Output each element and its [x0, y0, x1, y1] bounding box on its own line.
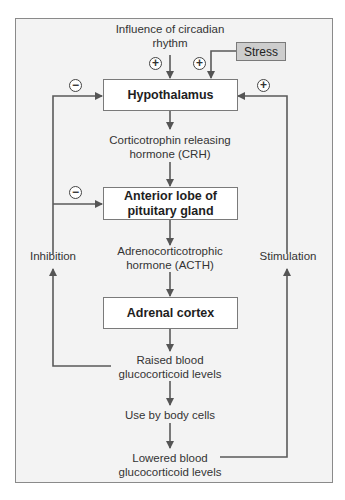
stimulation-label: Stimulation	[252, 249, 324, 263]
crh-label: Corticotrophin releasing hormone (CRH)	[90, 133, 250, 161]
inhibition-label: Inhibition	[23, 249, 83, 263]
acth-line2: hormone (ACTH)	[90, 258, 250, 272]
circadian-input-label: Influence of circadian rhythm	[100, 22, 240, 50]
hypothalamus-box: Hypothalamus	[103, 79, 238, 111]
anterior-pituitary-box: Anterior lobe of pituitary gland	[103, 187, 238, 220]
minus-circle-icon: −	[69, 79, 82, 92]
raised-levels-label: Raised blood glucocorticoid levels	[95, 353, 245, 381]
raised-line1: Raised blood	[95, 353, 245, 367]
acth-line1: Adrenocorticotrophic	[90, 244, 250, 258]
lowered-line1: Lowered blood	[95, 451, 245, 465]
anterior-line1: Anterior lobe of	[124, 189, 217, 204]
crh-line1: Corticotrophin releasing	[90, 133, 250, 147]
crh-line2: hormone (CRH)	[90, 147, 250, 161]
anterior-line2: pituitary gland	[127, 204, 213, 219]
plus-circle-icon: +	[149, 57, 162, 70]
adrenal-cortex-box: Adrenal cortex	[103, 297, 238, 329]
raised-line2: glucocorticoid levels	[95, 367, 245, 381]
stress-box: Stress	[236, 42, 286, 61]
plus-circle-icon: +	[257, 79, 270, 92]
plus-circle-icon: +	[193, 57, 206, 70]
minus-circle-icon: −	[69, 186, 82, 199]
hypothalamus-label: Hypothalamus	[127, 88, 213, 103]
adrenal-label: Adrenal cortex	[127, 306, 215, 321]
circadian-line2: rhythm	[100, 36, 240, 50]
use-by-cells-label: Use by body cells	[95, 408, 245, 422]
circadian-line1: Influence of circadian	[100, 22, 240, 36]
acth-label: Adrenocorticotrophic hormone (ACTH)	[90, 244, 250, 272]
lowered-line2: glucocorticoid levels	[95, 465, 245, 479]
stress-label: Stress	[244, 45, 278, 59]
lowered-levels-label: Lowered blood glucocorticoid levels	[95, 451, 245, 479]
